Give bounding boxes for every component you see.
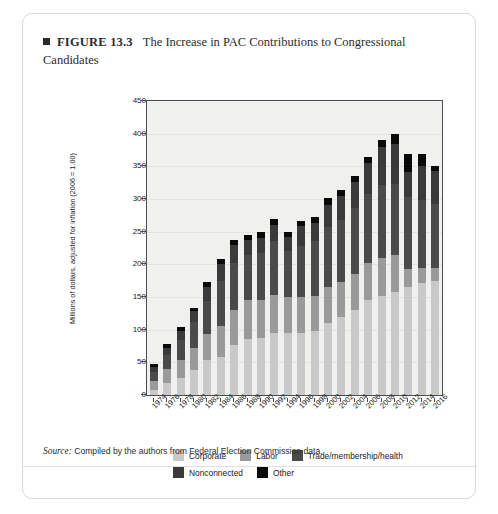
bar-segment <box>284 297 292 333</box>
bar-1982[interactable] <box>203 282 211 395</box>
bar-segment <box>391 255 399 292</box>
legend-item-nonconnected[interactable]: Nonconnected <box>173 467 243 478</box>
bar-2004[interactable] <box>351 175 359 395</box>
bar-segment <box>244 240 252 254</box>
bar-segment <box>418 200 426 269</box>
bar-segment <box>297 246 305 297</box>
bar-2010[interactable] <box>391 134 399 395</box>
bar-segment <box>391 144 399 185</box>
bar-segment <box>364 194 372 263</box>
source-label: Source: <box>43 446 72 456</box>
chart-container: Millions of dollars, adjusted for inflat… <box>23 86 477 431</box>
bar-segment <box>257 338 265 395</box>
bar-segment <box>150 381 158 390</box>
bar-segment <box>230 263 238 310</box>
legend-label: Other <box>273 468 294 478</box>
bar-2006[interactable] <box>364 157 372 395</box>
bar-segment <box>378 147 386 185</box>
bar-segment <box>404 172 412 197</box>
bar-segment <box>351 274 359 311</box>
bar-segment <box>203 360 211 395</box>
legend-row: NonconnectedOther <box>173 467 463 478</box>
bar-segment <box>324 227 332 287</box>
bar-1976[interactable] <box>163 344 171 395</box>
bar-segment <box>177 360 185 378</box>
bar-segment <box>311 296 319 331</box>
figure-caption: FIGURE 13.3The Increase in PAC Contribut… <box>43 33 455 69</box>
bar-2012[interactable] <box>404 154 412 395</box>
y-axis: 050100150200250300350400450 <box>105 100 146 396</box>
legend-item-other[interactable]: Other <box>257 467 294 478</box>
divider <box>23 466 475 467</box>
bar-segment <box>270 295 278 333</box>
legend-swatch <box>257 467 268 478</box>
bar-segment <box>351 208 359 273</box>
bar-segment <box>163 355 171 369</box>
bar-1984[interactable] <box>217 259 225 395</box>
bar-segment <box>404 287 412 395</box>
bar-1998[interactable] <box>311 217 319 395</box>
bar-segment <box>418 283 426 395</box>
bar-segment <box>297 226 305 246</box>
bar-segment <box>190 311 198 321</box>
bar-segment <box>163 383 171 395</box>
bar-2002[interactable] <box>337 190 345 395</box>
bar-segment <box>311 241 319 297</box>
bar-1980[interactable] <box>190 307 198 395</box>
bar-segment <box>270 241 278 295</box>
bar-segment <box>337 220 345 282</box>
legend-label: Nonconnected <box>189 468 243 478</box>
figure-number: FIGURE 13.3 <box>57 35 133 49</box>
bar-2000[interactable] <box>324 198 332 395</box>
bar-segment <box>150 390 158 395</box>
bar-segment <box>378 258 386 296</box>
bar-segment <box>270 225 278 242</box>
bar-segment <box>364 300 372 395</box>
bar-segment <box>217 264 225 281</box>
bar-segment <box>418 154 426 166</box>
bar-segment <box>324 205 332 227</box>
bar-segment <box>190 348 198 370</box>
bar-segment <box>257 253 265 300</box>
bar-segment <box>177 331 185 340</box>
bar-segment <box>311 331 319 395</box>
bar-1974[interactable] <box>150 364 158 395</box>
plot-area <box>146 100 443 396</box>
bar-1986[interactable] <box>230 240 238 395</box>
bar-segment <box>364 263 372 300</box>
bar-segment <box>418 166 426 200</box>
bar-segment <box>163 369 171 383</box>
square-bullet-icon <box>43 38 50 45</box>
bar-segment <box>337 317 345 395</box>
bar-1978[interactable] <box>177 327 185 395</box>
bar-1996[interactable] <box>297 221 305 395</box>
bar-segment <box>391 292 399 395</box>
x-axis: 1974197619781980198219841986198819901992… <box>146 398 443 438</box>
bar-1992[interactable] <box>270 219 278 395</box>
bar-segment <box>203 334 211 360</box>
bar-segment <box>177 340 185 360</box>
figure-card: FIGURE 13.3The Increase in PAC Contribut… <box>22 13 476 499</box>
bar-segment <box>177 378 185 395</box>
bar-segment <box>431 204 439 268</box>
bar-2008[interactable] <box>378 140 386 395</box>
bar-segment <box>257 238 265 254</box>
bar-segment <box>378 296 386 395</box>
bar-segment <box>324 323 332 395</box>
bar-1988[interactable] <box>244 235 252 395</box>
source-note: Source: Compiled by the authors from Fed… <box>43 446 323 456</box>
bar-segment <box>244 255 252 301</box>
bar-segment <box>431 281 439 395</box>
bar-segment <box>284 237 292 251</box>
bar-1994[interactable] <box>284 232 292 395</box>
bar-1990[interactable] <box>257 232 265 395</box>
bar-segment <box>230 345 238 395</box>
bar-2016[interactable] <box>431 166 439 395</box>
bar-segment <box>217 326 225 357</box>
bar-2014[interactable] <box>418 154 426 395</box>
bar-segment <box>431 171 439 204</box>
bar-segment <box>351 310 359 395</box>
bar-segment <box>431 268 439 281</box>
bar-segment <box>284 333 292 395</box>
bar-segment <box>203 301 211 334</box>
